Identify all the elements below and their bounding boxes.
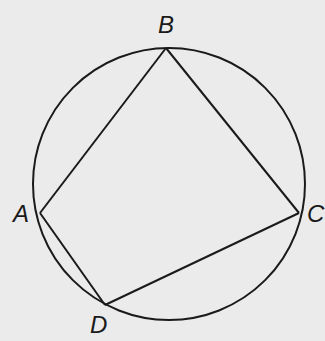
circle xyxy=(33,48,305,320)
segment-da xyxy=(40,213,105,305)
vertex-label-b: B xyxy=(158,11,174,38)
vertex-label-a: A xyxy=(11,200,29,227)
cyclic-quadrilateral-diagram: B A C D xyxy=(0,0,325,341)
segment-cd xyxy=(105,213,299,305)
vertex-label-d: D xyxy=(90,311,107,338)
vertex-label-c: C xyxy=(307,200,325,227)
segment-ab xyxy=(40,48,166,213)
segment-bc xyxy=(166,48,299,213)
